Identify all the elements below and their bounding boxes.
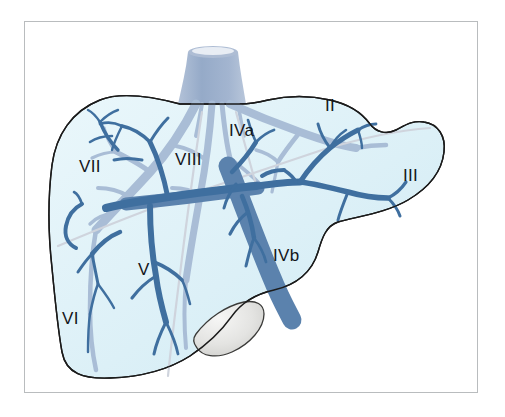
segment-label-vii: VII — [79, 158, 101, 175]
segment-label-iii: III — [403, 167, 418, 184]
segment-label-vi: VI — [62, 310, 79, 327]
segment-label-ivb: IVb — [273, 247, 299, 264]
segment-label-viii: VIII — [175, 151, 202, 168]
segment-label-v: V — [138, 261, 150, 278]
liver-segments-figure: II III IVa IVb V VI VII VIII — [0, 0, 505, 417]
liver-diagram-canvas — [0, 0, 505, 417]
segment-label-iva: IVa — [229, 122, 254, 139]
inferior-vena-cava-icon — [178, 46, 246, 104]
segment-label-ii: II — [325, 97, 335, 114]
